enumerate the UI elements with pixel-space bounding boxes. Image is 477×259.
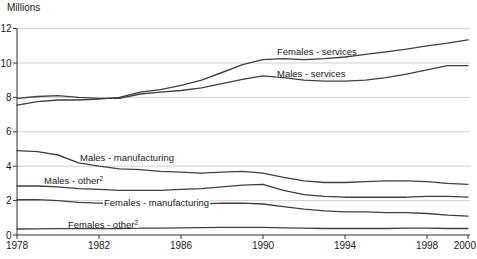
y-tick-label: 2 [6, 195, 12, 206]
series-label-males-manufacturing: Males - manufacturing [80, 152, 174, 163]
x-tick-label: 1978 [6, 240, 29, 251]
y-tick-label: 0 [6, 230, 12, 241]
y-tick-label: 6 [6, 126, 12, 137]
series-label-males-other: Males - other2 [44, 175, 103, 187]
y-axis-unit-label: Millions [7, 2, 40, 13]
series-label-females-other: Females - other2 [68, 219, 139, 231]
x-tick-label: 1982 [88, 240, 111, 251]
x-tick-label: 2000 [454, 240, 477, 251]
series-label-females-services: Females - services [277, 46, 357, 57]
x-tick-label: 1998 [416, 240, 439, 251]
series-line-females-services [17, 40, 468, 105]
chart-canvas: 0246810121978198219861990199419982000Fem… [0, 0, 477, 259]
series-label-males-services: Males - services [277, 68, 346, 79]
x-tick-label: 1994 [334, 240, 357, 251]
series-line-males-services [17, 66, 468, 99]
series-line-females-manufacturing [17, 200, 468, 216]
series-label-females-manufacturing: Females - manufacturing [104, 197, 209, 208]
footnote-marker: 2 [99, 175, 103, 182]
footnote-marker: 2 [135, 219, 139, 226]
x-tick-label: 1990 [252, 240, 275, 251]
line-chart: Millions 0246810121978198219861990199419… [0, 0, 477, 259]
x-tick-label: 1986 [170, 240, 193, 251]
series-line-males-other [17, 184, 468, 197]
y-tick-label: 10 [0, 58, 12, 69]
y-tick-label: 4 [6, 161, 12, 172]
y-tick-label: 12 [0, 23, 12, 34]
y-tick-label: 8 [6, 92, 12, 103]
